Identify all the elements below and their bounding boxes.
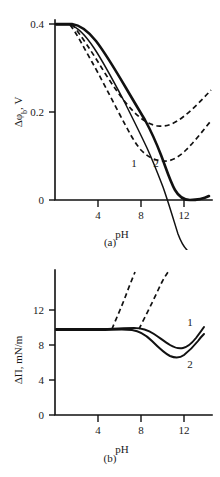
panel-b-ytick-label-8: 8 [39, 339, 45, 351]
panel-b-curve-2-dashed [139, 272, 168, 329]
panel-b-xtick-label-8: 8 [138, 424, 144, 436]
panel-b-curve-1-dashed [112, 272, 135, 329]
panel-b-chart: 0 4 8 12 4 8 12 1 2 pH ΔΠ, mN/m (b) [0, 250, 220, 477]
panel-b-svg: 0 4 8 12 4 8 12 1 2 pH ΔΠ, mN/m [0, 250, 220, 477]
panel-a-label: (a) [104, 236, 116, 248]
panel-a-curve-label-1: 1 [131, 157, 137, 169]
panel-a-chart: 0 0.2 0.4 4 8 12 1 2 pH Δφb, V (a) [0, 0, 220, 250]
panel-a-axes [55, 20, 212, 200]
svg-text:Δφb, V: Δφb, V [12, 97, 29, 128]
panel-a-ytick-label-0.2: 0.2 [30, 106, 44, 118]
panel-a-curve-1-dashed [70, 25, 210, 161]
panel-b-curve-label-1: 1 [187, 316, 193, 328]
panel-a-xtick-label-8: 8 [138, 209, 144, 221]
panel-b-ytick-label-0: 0 [39, 409, 45, 421]
panel-b-xtick-label-4: 4 [95, 424, 101, 436]
panel-b-xtick-label-12: 12 [179, 424, 190, 436]
panel-a-ytick-label-0: 0 [39, 194, 45, 206]
panel-a-ylabel: Δφb, V [12, 97, 29, 128]
panel-a-curve-2-dashed [72, 24, 211, 126]
panel-a-curve-2-solid [56, 24, 209, 200]
panel-a-ylabel-delta: Δ [12, 120, 24, 127]
panel-b-ytick-label-4: 4 [39, 374, 45, 386]
panel-b-ylabel-group: ΔΠ, mN/m [12, 335, 24, 384]
panel-b-curve-2-solid [56, 330, 204, 358]
panel-b-ylabel: ΔΠ, mN/m [12, 335, 24, 384]
panel-a-curve-1-solid [56, 25, 187, 250]
panel-b-axes [55, 270, 212, 415]
panel-a-svg: 0 0.2 0.4 4 8 12 1 2 pH Δφb, V [0, 0, 220, 250]
panel-a-xtick-label-12: 12 [179, 209, 190, 221]
panel-a-ylabel-unit: , V [12, 97, 24, 110]
panel-b-curve-label-2: 2 [187, 358, 193, 370]
panel-b-ytick-label-12: 12 [33, 304, 44, 316]
panel-a-curve-label-2: 2 [153, 157, 159, 169]
panel-a-ytick-label-0.4: 0.4 [30, 18, 44, 30]
panel-a-xtick-label-4: 4 [95, 209, 101, 221]
panel-b-label: (b) [104, 452, 117, 464]
